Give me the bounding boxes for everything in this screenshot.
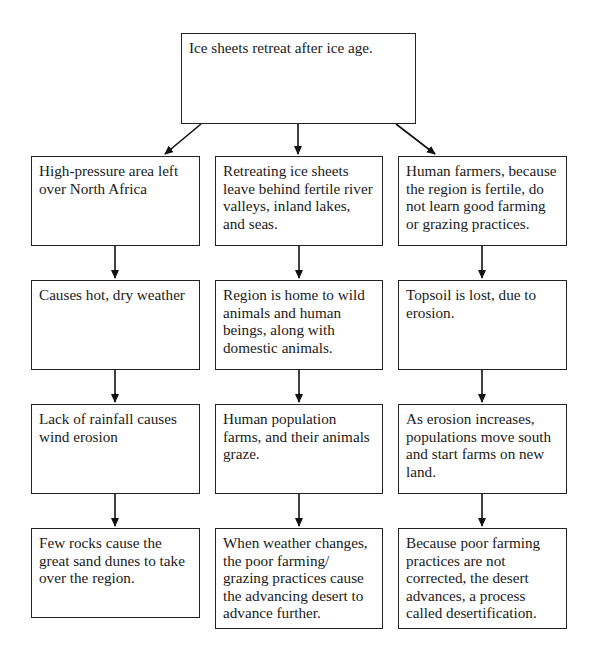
box-text: High-pressure area left over North Afric…: [39, 162, 178, 197]
box-text: Human farmers, because the region is fer…: [406, 162, 557, 232]
box-text: Human population farms, and their animal…: [223, 410, 370, 462]
box-text: Lack of rainfall causes wind erosion: [39, 410, 177, 445]
box-text: Few rocks cause the great sand dunes to …: [39, 534, 185, 586]
arrow-root-to-right: [396, 124, 435, 154]
box-text: Region is home to wild animals and human…: [223, 286, 365, 356]
arrow-root-to-left: [165, 124, 201, 154]
left-box-3: Lack of rainfall causes wind erosion: [31, 404, 200, 494]
box-text: Causes hot, dry weather: [39, 286, 185, 303]
left-box-2: Causes hot, dry weather: [31, 280, 200, 370]
left-box-1: High-pressure area left over North Afric…: [31, 156, 200, 246]
right-box-3: As erosion increases, populations move s…: [398, 404, 567, 494]
box-text: When weather changes, the poor farming/ …: [223, 534, 368, 621]
middle-box-1: Retreating ice sheets leave behind ferti…: [215, 156, 383, 246]
box-text: Topsoil is lost, due to erosion.: [406, 286, 536, 321]
root-box: Ice sheets retreat after ice age.: [181, 33, 416, 124]
right-box-1: Human farmers, because the region is fer…: [398, 156, 567, 246]
right-box-4: Because poor farming practices are not c…: [398, 528, 567, 629]
middle-box-3: Human population farms, and their animal…: [215, 404, 383, 494]
box-text: Because poor farming practices are not c…: [406, 534, 540, 621]
right-box-2: Topsoil is lost, due to erosion.: [398, 280, 567, 370]
middle-box-2: Region is home to wild animals and human…: [215, 280, 383, 370]
left-box-4: Few rocks cause the great sand dunes to …: [31, 528, 200, 618]
root-box-text: Ice sheets retreat after ice age.: [189, 39, 373, 56]
middle-box-4: When weather changes, the poor farming/ …: [215, 528, 383, 629]
box-text: Retreating ice sheets leave behind ferti…: [223, 162, 373, 232]
box-text: As erosion increases, populations move s…: [406, 410, 551, 480]
